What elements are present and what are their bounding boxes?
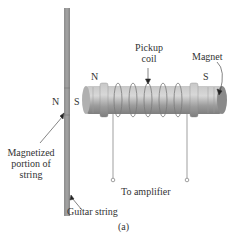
amplifier-leads xyxy=(111,114,189,182)
guitar-string-label: Guitar string xyxy=(67,206,118,217)
pickup-diagram xyxy=(0,0,239,235)
magnet-south-pole-label: S xyxy=(203,71,209,82)
magnet-label: Magnet xyxy=(192,51,223,62)
magnet-north-pole-label: N xyxy=(91,71,98,82)
pickup-coil-label: Pickup coil xyxy=(131,42,167,64)
string-north-pole-label: N xyxy=(52,96,59,107)
to-amplifier-label: To amplifier xyxy=(121,186,171,197)
string-south-pole-label: S xyxy=(74,96,80,107)
guitar-string xyxy=(64,8,70,216)
magnet-rod xyxy=(82,83,227,117)
magnetized-portion-label: Magnetized portion of string xyxy=(2,147,60,180)
panel-label: (a) xyxy=(118,221,129,232)
